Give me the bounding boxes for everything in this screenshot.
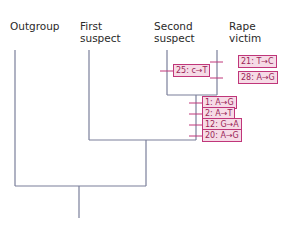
mutation-badge: 20: A→G: [202, 129, 242, 142]
mutation-badge: 28: A→G: [238, 71, 278, 84]
taxon-label-outgroup: Outgroup: [10, 20, 60, 32]
mutation-badge: 21: T→C: [238, 55, 277, 68]
mutation-badge: 25: c→T: [173, 64, 210, 77]
taxon-label-second-suspect: Second suspect: [154, 20, 195, 44]
taxon-label-first-suspect: First suspect: [80, 20, 121, 44]
taxon-label-rape-victim: Rape victim: [229, 20, 261, 44]
